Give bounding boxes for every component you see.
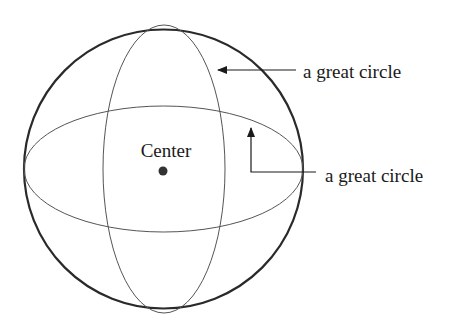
great-circle-label-2: a great circle <box>325 165 423 186</box>
great-circle-label-1: a great circle <box>303 61 401 82</box>
center-dot <box>159 167 168 176</box>
sphere-diagram: Center a great circle a great circle <box>0 0 468 333</box>
center-label: Center <box>141 140 192 161</box>
arrow-2 <box>251 128 316 172</box>
